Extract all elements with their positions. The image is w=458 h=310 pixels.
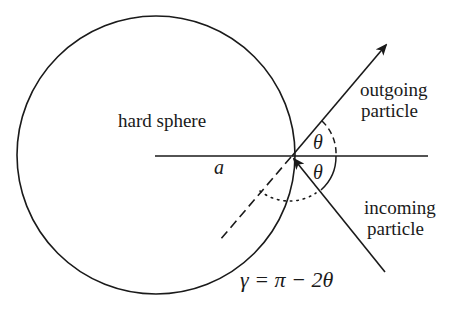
radius-label: a [214, 158, 224, 177]
incoming-label-line2: particle [367, 219, 424, 238]
scattering-diagram: hard sphere a outgoing particle θ θ inco… [0, 0, 458, 310]
theta-lower-label: θ [313, 163, 323, 182]
theta-upper-arc [322, 121, 336, 156]
outgoing-label-line2: particle [361, 101, 418, 120]
theta-upper-label: θ [313, 133, 323, 152]
gamma-equation: γ = π − 2θ [240, 270, 333, 289]
outgoing-label-line1: outgoing [360, 80, 428, 99]
hard-sphere-circle [17, 16, 295, 294]
diagram-graphics [0, 0, 458, 310]
theta-lower-arc [321, 156, 336, 190]
hard-sphere-label: hard sphere [118, 111, 206, 130]
incoming-label-line1: incoming [364, 198, 436, 217]
dashed-normal-line [220, 157, 291, 240]
